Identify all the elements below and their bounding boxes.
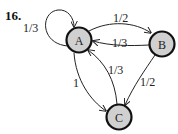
problem-number: 16. [5, 8, 21, 23]
edge-label-a-c: 1 [73, 76, 79, 90]
node-b-label: B [158, 38, 166, 52]
node-c-label: C [115, 111, 123, 125]
edge-label-a-b: 1/2 [113, 11, 128, 25]
edge-label-a-a: 1/3 [23, 21, 38, 35]
edge-label-b-c: 1/2 [140, 75, 155, 89]
edge-label-b-a: 1/3 [112, 36, 127, 50]
node-a: A [67, 28, 92, 53]
node-a-label: A [75, 34, 84, 48]
state-diagram: 16. 1/3 1/2 1/3 1 1/3 1/2 A B C [0, 0, 178, 134]
edge-a-b [89, 24, 151, 33]
node-b: B [150, 32, 175, 57]
edge-label-c-a: 1/3 [108, 63, 123, 77]
node-c: C [107, 105, 132, 130]
edge-c-a [88, 50, 117, 104]
